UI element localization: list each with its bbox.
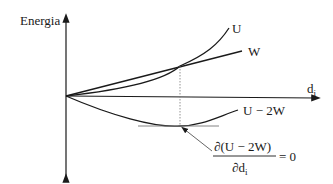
label-u-minus-2w: U − 2W <box>243 103 286 118</box>
curve-u-minus-2w <box>66 96 238 126</box>
pointer-arrow <box>184 129 212 151</box>
label-w: W <box>248 44 261 59</box>
equation-rhs: = 0 <box>279 149 296 164</box>
x-axis <box>66 96 316 98</box>
curve-w <box>66 51 242 96</box>
energy-diagram: Energia di U W U − 2W ∂(U − 2W) ∂di = 0 <box>0 0 333 184</box>
equation-denominator: ∂di <box>232 160 248 177</box>
equation-numerator: ∂(U − 2W) <box>214 139 271 154</box>
curve-u <box>66 28 229 96</box>
y-axis-label: Energia <box>20 13 60 28</box>
x-axis-label: di <box>307 81 317 98</box>
label-u: U <box>232 21 242 36</box>
